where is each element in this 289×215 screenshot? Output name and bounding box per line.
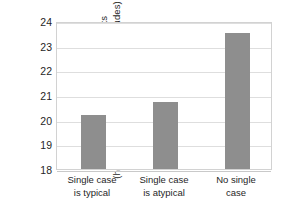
x-axis-tick-labels: Single caseis typicalSingle caseis atypi…	[56, 174, 272, 212]
bar-chart-figure: Attitudes toward welfare recipients (hig…	[0, 0, 289, 215]
y-tick-label-20: 20	[40, 115, 52, 127]
x-tick-label-1-line-1: Single case	[67, 174, 116, 185]
y-tick-label-21: 21	[40, 90, 52, 102]
plot-area	[56, 22, 272, 170]
y-tick-label-24: 24	[40, 16, 52, 28]
y-axis-title: Attitudes toward welfare recipients (hig…	[0, 0, 34, 180]
x-tick-label-3-line-1: No single	[216, 174, 256, 185]
y-tick-label-22: 22	[40, 65, 52, 77]
y-tick-label-19: 19	[40, 139, 52, 151]
bar-1	[81, 115, 106, 169]
bars-layer	[57, 23, 271, 169]
x-tick-label-3-line-2: case	[193, 187, 279, 200]
y-axis-tick-labels: 18192021222324	[30, 22, 52, 170]
gridline-18	[57, 171, 271, 172]
bar-3	[225, 33, 250, 169]
y-tick-label-23: 23	[40, 41, 52, 53]
x-tick-label-2-line-1: Single case	[139, 174, 188, 185]
bar-2	[153, 102, 178, 169]
x-tick-label-3: No singlecase	[193, 174, 279, 199]
